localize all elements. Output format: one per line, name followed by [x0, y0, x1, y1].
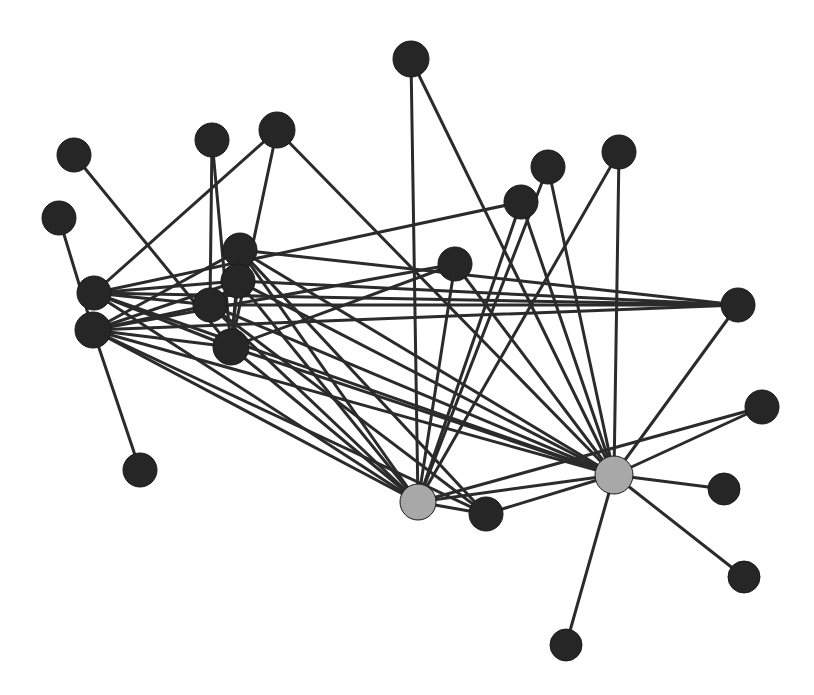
graph-node[interactable] [193, 288, 227, 322]
graph-node[interactable] [504, 185, 538, 219]
graph-node[interactable] [223, 233, 257, 267]
graph-node[interactable] [57, 138, 91, 172]
graph-node[interactable] [42, 201, 76, 235]
network-graph-svg [0, 0, 814, 695]
graph-background [0, 0, 814, 695]
network-graph-canvas [0, 0, 814, 695]
graph-node[interactable] [195, 123, 229, 157]
graph-node[interactable] [438, 247, 472, 281]
graph-node-hub[interactable] [400, 484, 436, 520]
graph-node[interactable] [602, 135, 636, 169]
graph-node[interactable] [469, 497, 503, 531]
graph-node[interactable] [77, 276, 111, 310]
graph-node[interactable] [745, 390, 779, 424]
graph-node[interactable] [728, 561, 760, 593]
graph-node[interactable] [221, 264, 255, 298]
graph-node[interactable] [123, 453, 157, 487]
graph-node-hub[interactable] [595, 456, 633, 494]
graph-node[interactable] [213, 329, 249, 365]
graph-node[interactable] [259, 112, 295, 148]
graph-edge [210, 140, 212, 305]
graph-node[interactable] [393, 41, 429, 77]
graph-node[interactable] [75, 312, 111, 348]
graph-node[interactable] [721, 288, 755, 322]
graph-node[interactable] [531, 150, 565, 184]
graph-node[interactable] [550, 629, 582, 661]
graph-node[interactable] [708, 473, 740, 505]
